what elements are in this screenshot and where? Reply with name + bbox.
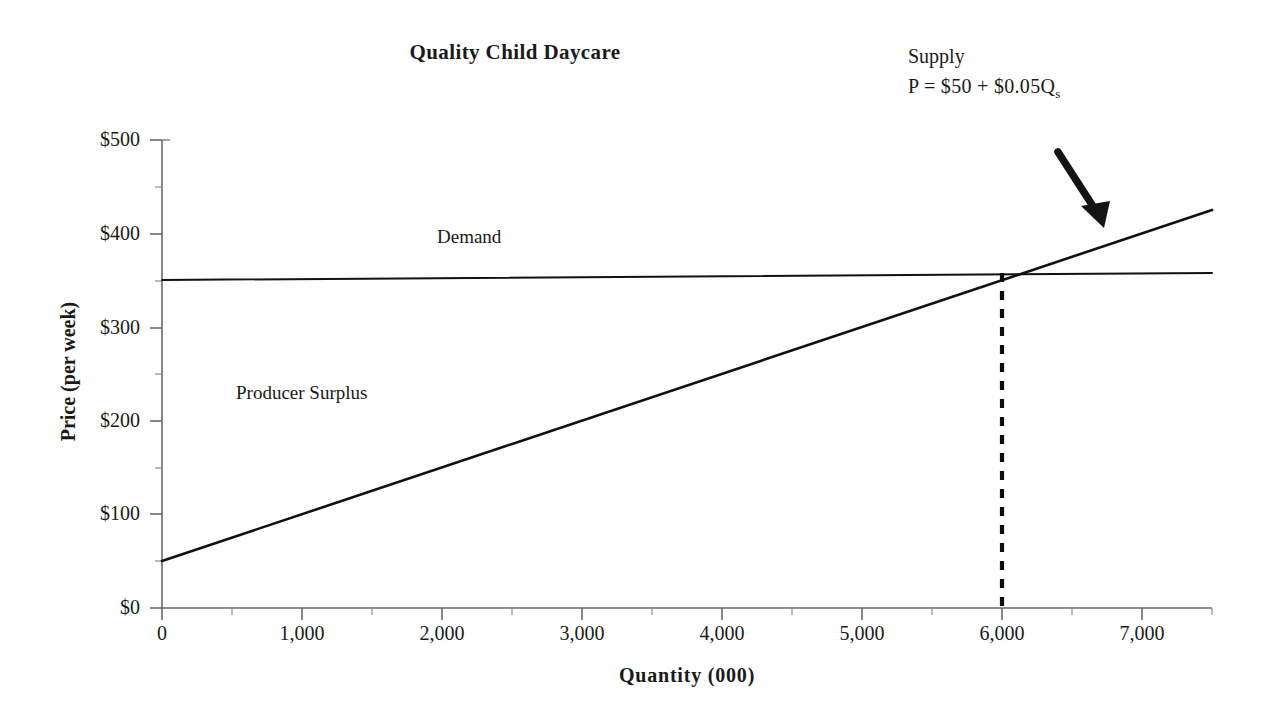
supply-pointer-arrow: [1058, 152, 1110, 228]
demand-curve: [162, 273, 1212, 280]
supply-curve: [162, 210, 1212, 561]
chart-page: Quality Child Daycare Supply P = $50 + $…: [0, 0, 1275, 726]
y-axis-minor-ticks: [155, 187, 162, 561]
plot-canvas: [0, 0, 1275, 726]
